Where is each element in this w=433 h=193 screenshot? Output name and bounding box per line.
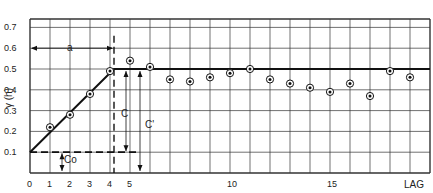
x-axis-label: LAG <box>404 179 424 190</box>
svg-text:0.2: 0.2 <box>4 126 17 136</box>
nugget-label-co: Co <box>64 154 77 165</box>
svg-text:3: 3 <box>87 179 92 189</box>
svg-text:5: 5 <box>127 179 132 189</box>
svg-text:2: 2 <box>67 179 72 189</box>
svg-text:15: 15 <box>327 179 337 189</box>
tick-labels: 01234510150.10.20.30.40.50.60.7 <box>4 22 337 189</box>
variogram-chart: 01234510150.10.20.30.40.50.60.7 γ (h) LA… <box>0 0 433 193</box>
total-sill-label-cprime: C' <box>145 119 154 130</box>
svg-text:4: 4 <box>107 179 112 189</box>
range-label-a: a <box>67 42 73 53</box>
sill-label-c: C <box>121 108 128 119</box>
svg-text:0: 0 <box>27 179 32 189</box>
svg-text:1: 1 <box>47 179 52 189</box>
svg-text:0.6: 0.6 <box>4 43 17 53</box>
svg-text:0.5: 0.5 <box>4 64 17 74</box>
svg-text:0.7: 0.7 <box>4 22 17 32</box>
svg-text:0.1: 0.1 <box>4 147 17 157</box>
y-axis-label: γ (h) <box>3 88 14 108</box>
svg-text:10: 10 <box>227 179 237 189</box>
